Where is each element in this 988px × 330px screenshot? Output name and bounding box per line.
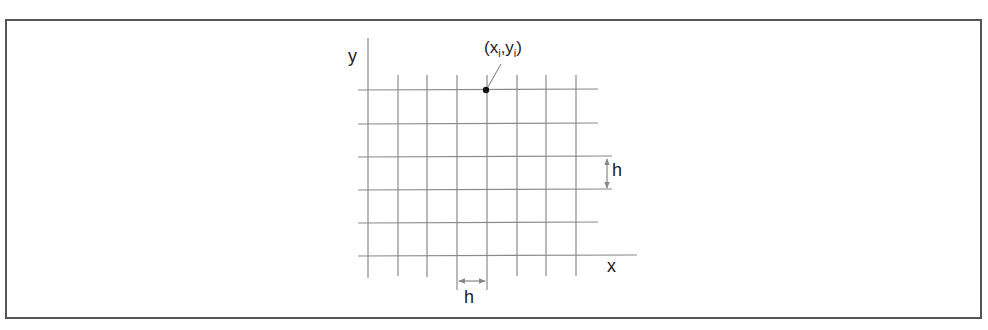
grid-diagram: (xi,yi) y x h h — [0, 0, 988, 330]
x-axis-label: x — [607, 256, 616, 276]
grid-line-h — [358, 189, 612, 190]
point-leader-line — [488, 64, 501, 87]
vertical-spacing-label: h — [612, 160, 622, 180]
horizontal-grid-lines — [358, 89, 637, 256]
x-axis-line — [358, 255, 637, 256]
horizontal-spacing-label: h — [464, 287, 474, 307]
grid-line-h — [358, 222, 598, 223]
grid-line-h — [358, 123, 598, 124]
point-label: (xi,yi) — [484, 38, 522, 59]
grid-point — [483, 87, 489, 93]
grid-line-h — [358, 156, 612, 157]
vertical-grid-lines — [368, 38, 576, 290]
y-axis-label: y — [348, 46, 357, 66]
grid-line-h — [358, 89, 598, 90]
